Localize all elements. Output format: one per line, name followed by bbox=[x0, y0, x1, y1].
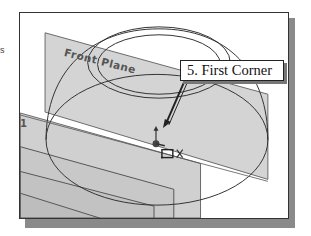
graphics-viewport[interactable] bbox=[20, 13, 288, 218]
step-callout: 5. First Corner bbox=[180, 60, 284, 81]
screenshot-frame: Front Plane 1 bbox=[19, 12, 289, 219]
side-plane-label: 1 bbox=[20, 118, 27, 129]
cropped-text-fragment: s bbox=[0, 45, 5, 55]
